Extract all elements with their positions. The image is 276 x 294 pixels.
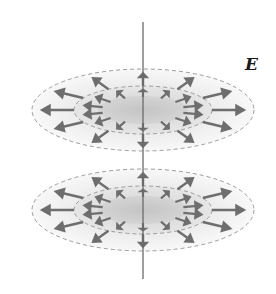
field-diagram bbox=[0, 0, 276, 294]
field-label-e: E bbox=[245, 54, 258, 74]
